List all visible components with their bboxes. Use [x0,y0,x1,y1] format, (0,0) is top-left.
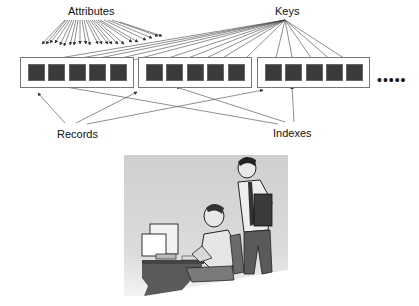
attribute-arrows [42,20,162,46]
indexes-arrows [60,86,294,124]
office-workers-illustration [122,150,292,300]
attribute-cell [207,64,224,81]
seated-man-legs [186,266,234,282]
attribute-cell [265,64,282,81]
attribute-cell [326,64,343,81]
ellipsis-dots: ••••• [377,72,407,88]
attribute-cell [28,64,45,81]
records-arrows [38,90,263,124]
attribute-cell [69,64,86,81]
attributes-label: Attributes [68,6,114,17]
attribute-cell [187,64,204,81]
indexes-label: Indexes [273,128,312,139]
record-box-2 [138,57,252,88]
attribute-cell [166,64,183,81]
attribute-cell [146,64,163,81]
record-box-3 [257,57,370,88]
attribute-cell [285,64,302,81]
attribute-cell [110,64,127,81]
keys-label: Keys [275,6,299,17]
attribute-cell [48,64,65,81]
attribute-cell [228,64,245,81]
attribute-cell [89,64,106,81]
monitor-front-icon [142,234,166,256]
records-label: Records [57,129,98,140]
attribute-cell [346,64,363,81]
attribute-cell [306,64,323,81]
record-box-1 [20,57,134,88]
binder-icon [254,194,272,226]
